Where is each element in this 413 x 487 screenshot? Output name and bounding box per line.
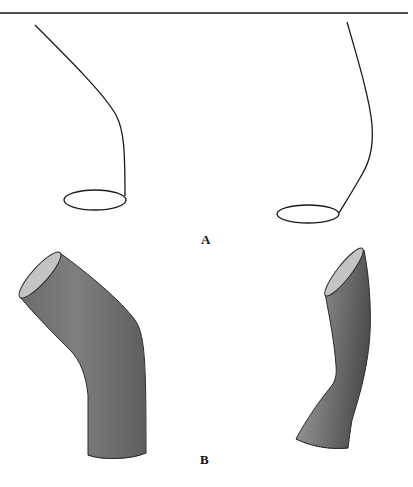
right-cross-section bbox=[277, 205, 339, 223]
right-centerline-with-cross-section bbox=[277, 22, 372, 223]
left-centerline-with-cross-section bbox=[35, 25, 126, 210]
left-swept-tube bbox=[14, 247, 146, 458]
left-cross-section bbox=[64, 190, 126, 210]
left-centerline bbox=[35, 25, 125, 196]
figure: A B bbox=[0, 0, 413, 487]
right-swept-tube bbox=[296, 244, 370, 448]
panel-label-b: B bbox=[200, 452, 209, 468]
panel-label-a: A bbox=[201, 232, 210, 248]
right-centerline bbox=[339, 22, 372, 213]
